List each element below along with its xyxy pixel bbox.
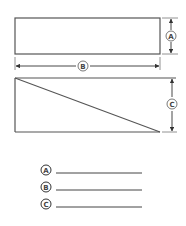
svg-text:B: B: [80, 63, 85, 71]
dimension-diagram: A B C A B C: [0, 0, 186, 226]
answer-row-c: C: [41, 199, 51, 209]
svg-text:C: C: [169, 101, 174, 109]
dimension-label-b: B: [78, 61, 88, 71]
svg-text:C: C: [43, 201, 48, 209]
svg-text:A: A: [43, 167, 49, 175]
dimension-label-a: A: [166, 31, 176, 41]
triangle-hypotenuse: [15, 78, 160, 132]
rectangle-shape: [15, 18, 160, 54]
svg-text:B: B: [43, 184, 48, 192]
answer-row-b: B: [41, 182, 51, 192]
svg-text:A: A: [168, 33, 174, 41]
answer-row-a: A: [41, 165, 51, 175]
dimension-label-c: C: [167, 99, 177, 109]
